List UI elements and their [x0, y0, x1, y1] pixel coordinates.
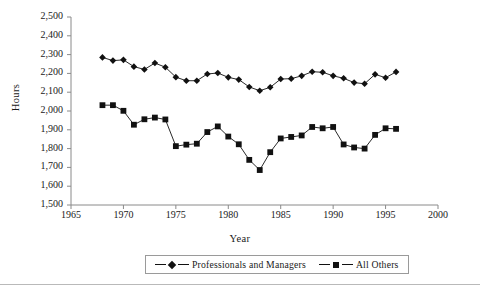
data-point-marker [235, 76, 242, 83]
data-point-marker [246, 84, 253, 91]
data-point-marker [393, 126, 399, 132]
data-point-marker [309, 124, 315, 130]
data-point-marker [204, 71, 211, 78]
data-point-marker [320, 125, 326, 131]
data-point-marker [351, 145, 357, 151]
legend-line-left [319, 264, 330, 265]
square-marker-icon [333, 262, 339, 268]
data-point-marker [120, 57, 127, 64]
data-point-marker [246, 157, 252, 163]
data-point-marker [278, 136, 284, 142]
diamond-marker-icon [168, 260, 176, 268]
data-point-marker [183, 142, 189, 148]
data-point-marker [215, 70, 222, 77]
data-point-marker [288, 134, 294, 140]
data-point-marker [330, 73, 337, 80]
legend-item-1: Professionals and Managers [155, 259, 306, 270]
data-point-marker [267, 149, 273, 155]
data-point-marker [298, 73, 305, 80]
data-point-marker [393, 69, 400, 76]
data-point-marker [162, 117, 168, 123]
chart-series-layer [99, 54, 399, 173]
chart-legend: Professionals and ManagersAll Others [145, 255, 409, 274]
data-point-marker [225, 134, 231, 140]
data-point-marker [340, 75, 347, 82]
data-point-marker [121, 108, 127, 114]
data-point-marker [383, 125, 389, 131]
data-point-marker [152, 115, 158, 121]
data-point-marker [319, 69, 326, 76]
data-point-marker [299, 133, 305, 139]
data-point-marker [330, 124, 336, 130]
data-point-marker [256, 87, 263, 94]
data-point-marker [288, 75, 295, 82]
data-point-marker [194, 77, 201, 84]
footer-rule [0, 284, 480, 285]
data-point-marker [131, 122, 137, 128]
series-1 [99, 54, 399, 94]
data-point-marker [100, 102, 106, 108]
series-2 [100, 102, 399, 173]
data-point-marker [341, 142, 347, 148]
data-point-marker [362, 146, 368, 152]
data-point-marker [225, 74, 232, 81]
data-point-marker [351, 79, 358, 86]
data-point-marker [110, 102, 116, 108]
data-point-marker [183, 77, 190, 84]
data-point-marker [257, 167, 263, 173]
data-point-marker [382, 74, 389, 81]
data-point-marker [142, 116, 148, 122]
data-point-marker [309, 68, 316, 75]
data-point-marker [194, 141, 200, 147]
data-point-marker [152, 60, 159, 67]
legend-line-left [155, 264, 166, 265]
data-point-marker [215, 124, 221, 130]
data-point-marker [110, 57, 117, 64]
legend-label: Professionals and Managers [192, 259, 306, 270]
legend-item-2: All Others [319, 259, 399, 270]
data-point-marker [173, 143, 179, 149]
data-point-marker [99, 54, 106, 61]
chart-plot-area [0, 0, 480, 287]
data-point-marker [204, 129, 210, 135]
legend-label: All Others [356, 259, 399, 270]
data-point-marker [141, 66, 148, 73]
data-point-marker [236, 141, 242, 147]
legend-line-right [178, 264, 189, 265]
data-point-marker [372, 132, 378, 138]
legend-line-right [342, 264, 353, 265]
data-point-marker [131, 63, 138, 70]
chart-figure: Hours Year 1,5001,6001,7001,8001,9002,00… [0, 0, 480, 287]
